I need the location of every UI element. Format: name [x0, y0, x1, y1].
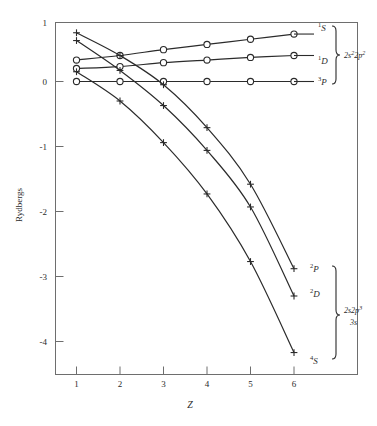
series-1D: [73, 52, 297, 71]
y-tick-labels: 1 0 -1 -2 -3 -4: [40, 18, 48, 347]
series-label-1S: 1S: [318, 21, 326, 33]
series-label-2P: 2P: [310, 262, 319, 274]
x-tick-label: 4: [205, 379, 210, 389]
data-point-3P-z4: [204, 78, 210, 84]
lower-group-brace: [332, 266, 340, 359]
data-point-2P-z5: [247, 181, 254, 188]
rydbergs-vs-z-chart: 1 0 -1 -2 -3 -4 Rydbergs 1 2 3 4 5 6: [0, 0, 377, 426]
data-point-2D-z1: [73, 37, 80, 44]
data-point-1D-z4: [204, 57, 210, 63]
data-point-2D-z5: [247, 204, 254, 211]
y-tick-label: -3: [40, 272, 48, 282]
series-label-1D: 1D: [318, 54, 328, 66]
svg-text:2P: 2P: [310, 262, 319, 274]
series-4S: [73, 68, 297, 356]
upper-group-label: 2s22p2: [344, 50, 365, 61]
term-letter: S: [313, 356, 318, 366]
y-tick-label: 1: [43, 18, 48, 28]
svg-text:1S: 1S: [318, 21, 326, 33]
x-tick-label: 3: [161, 379, 166, 389]
series-3P: [73, 78, 297, 84]
term-letter: D: [312, 289, 320, 299]
x-tick-labels: 1 2 3 4 5 6: [74, 379, 297, 389]
term-letter: S: [321, 23, 326, 33]
data-point-1S-z3: [160, 47, 166, 53]
data-series-layer: [73, 29, 314, 356]
group-label-part: 2s2p: [344, 306, 359, 315]
y-axis-title: Rydbergs: [14, 188, 24, 222]
series-line-4S: [77, 72, 295, 353]
y-axis-ticks: [56, 23, 64, 342]
data-point-3P-z2: [117, 78, 123, 84]
svg-text:3P: 3P: [318, 75, 327, 87]
group-label-sup: 2: [362, 50, 365, 56]
series-label-2D: 2D: [310, 287, 320, 299]
x-tick-label: 6: [292, 379, 297, 389]
figure-container: 1 0 -1 -2 -3 -4 Rydbergs 1 2 3 4 5 6: [0, 0, 377, 426]
x-axis-title: Z: [187, 399, 193, 410]
series-label-3P: 3P: [318, 75, 327, 87]
data-point-2P-z1: [73, 29, 80, 36]
series-label-4S: 4S: [310, 354, 318, 366]
series-1S: [73, 31, 297, 63]
term-letter: P: [320, 77, 327, 87]
data-point-1D-z5: [247, 54, 253, 60]
y-tick-label: -1: [40, 142, 48, 152]
series-2P: [73, 29, 297, 272]
group-label-sup: 3: [358, 305, 362, 311]
y-tick-label: -4: [40, 337, 48, 347]
data-point-1S-z5: [247, 36, 253, 42]
data-point-2D-z6: [291, 293, 298, 300]
data-point-2P-z6: [291, 265, 298, 272]
svg-text:2D: 2D: [310, 287, 320, 299]
svg-text:4S: 4S: [310, 354, 318, 366]
data-point-1S-z1: [73, 57, 79, 63]
y-tick-label: -2: [40, 207, 48, 217]
data-point-4S-z6: [291, 349, 298, 356]
x-tick-label: 5: [248, 379, 253, 389]
upper-group-brace: [332, 26, 340, 84]
x-axis-ticks: [77, 367, 295, 375]
term-letter: P: [312, 264, 319, 274]
series-line-1S: [77, 34, 295, 60]
y-tick-label: 0: [43, 77, 48, 87]
svg-text:1D: 1D: [318, 54, 328, 66]
x-tick-label: 2: [118, 379, 123, 389]
term-letter: D: [320, 56, 328, 66]
group-label-part: 2s: [344, 51, 351, 60]
data-point-4S-z5: [247, 258, 254, 265]
series-line-2D: [77, 41, 295, 296]
group-label-part: 2p: [354, 51, 362, 60]
data-point-1S-z4: [204, 41, 210, 47]
lower-group-label: 2s2p3: [344, 305, 362, 316]
plot-frame: [56, 23, 358, 375]
data-point-1D-z3: [160, 60, 166, 66]
data-point-3P-z1: [73, 78, 79, 84]
data-point-3P-z5: [247, 78, 253, 84]
x-tick-label: 1: [74, 379, 79, 389]
series-2D: [73, 37, 297, 299]
series-line-2P: [77, 33, 295, 269]
lower-group-label-line2: 3s: [349, 318, 357, 327]
